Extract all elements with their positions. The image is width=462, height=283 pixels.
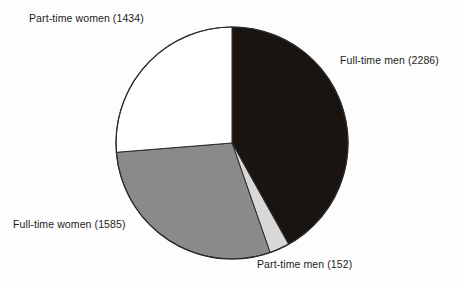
pie-slice-part-time-women[interactable]	[116, 27, 232, 152]
pie-slices	[116, 27, 348, 259]
pie-chart-figure: Part-time women (1434) Full-time men (22…	[0, 0, 462, 283]
pie-label-full-time-women: Full-time women (1585)	[13, 218, 126, 231]
pie-chart-svg	[0, 0, 462, 283]
pie-label-part-time-women: Part-time women (1434)	[29, 12, 144, 25]
pie-label-full-time-men: Full-time men (2286)	[340, 54, 439, 67]
pie-label-part-time-men: Part-time men (152)	[257, 258, 352, 271]
